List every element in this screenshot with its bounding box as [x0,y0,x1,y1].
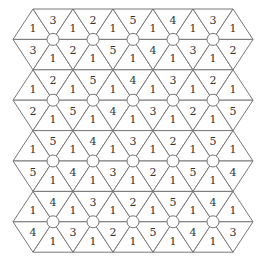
vertex-circle [87,33,99,45]
cell-number: 1 [50,113,57,126]
cell-number: 2 [70,44,77,57]
cell-number: 1 [90,113,97,126]
cell-number: 1 [30,22,37,35]
cell-number: 1 [230,22,237,35]
vertex-circle [207,155,219,167]
cell-number: 1 [90,235,97,248]
vertex-circle [47,155,59,167]
cell-number: 4 [30,226,37,239]
cell-number: 1 [170,113,177,126]
vertex-circle [127,155,139,167]
vertex-circle [127,33,139,45]
cell-number: 2 [190,105,197,118]
cell-number: 1 [90,52,97,65]
cell-number: 1 [130,113,137,126]
cell-number: 2 [130,196,137,209]
cell-number: 1 [50,235,57,248]
cell-number: 5 [150,226,157,239]
vertex-circle [167,94,179,106]
cell-number: 1 [150,83,157,96]
cell-number: 1 [230,83,237,96]
vertex-circle [47,216,59,228]
cell-number: 1 [170,174,177,187]
cell-number: 1 [230,204,237,217]
cell-number: 1 [150,204,157,217]
cell-number: 1 [170,235,177,248]
cell-number: 1 [70,204,77,217]
cell-number: 1 [110,143,117,156]
cell-number: 3 [190,44,197,57]
cell-number: 2 [170,135,177,148]
cell-number: 2 [90,14,97,27]
vertex-circle [207,216,219,228]
cell-number: 4 [130,74,137,87]
cell-number: 2 [30,105,37,118]
cell-number: 1 [70,22,77,35]
cell-number: 2 [110,226,117,239]
cell-number: 1 [150,143,157,156]
cell-number: 4 [70,166,77,179]
cell-number: 5 [110,44,117,57]
cell-number: 1 [130,174,137,187]
cell-number: 3 [150,105,157,118]
cell-number: 2 [230,44,237,57]
cell-number: 3 [230,226,237,239]
vertex-circle [167,216,179,228]
cell-number: 3 [130,135,137,148]
cell-number: 4 [150,44,157,57]
cell-number: 1 [190,143,197,156]
vertex-circle [207,33,219,45]
cell-number: 1 [110,83,117,96]
cell-number: 4 [210,196,217,209]
vertex-circle [207,94,219,106]
cell-number: 1 [30,143,37,156]
vertex-circle [127,94,139,106]
cell-number: 5 [70,105,77,118]
vertex-circle [47,94,59,106]
cell-number: 1 [110,204,117,217]
cell-number: 1 [210,174,217,187]
cell-number: 2 [150,166,157,179]
cell-number: 3 [210,14,217,27]
cell-number: 1 [110,22,117,35]
cell-number: 1 [70,83,77,96]
cell-number: 4 [110,105,117,118]
cell-number: 1 [190,204,197,217]
cell-number: 5 [190,166,197,179]
cell-number: 3 [30,44,37,57]
cell-number: 1 [50,174,57,187]
cell-number: 4 [190,226,197,239]
cell-number: 1 [130,52,137,65]
cell-number: 1 [230,143,237,156]
cell-number: 3 [110,166,117,179]
vertex-circle [47,33,59,45]
cell-number: 1 [90,174,97,187]
cell-number: 4 [230,166,237,179]
cell-number: 3 [170,74,177,87]
cell-number: 5 [50,135,57,148]
cell-number: 3 [90,196,97,209]
cell-number: 5 [230,105,237,118]
cell-number: 1 [190,22,197,35]
cell-number: 1 [50,52,57,65]
cell-number: 4 [170,14,177,27]
cell-number: 1 [70,143,77,156]
cell-number: 5 [210,135,217,148]
cell-number: 3 [50,14,57,27]
cell-number: 5 [130,14,137,27]
vertex-circle [167,33,179,45]
cell-number: 4 [90,135,97,148]
vertex-circle [87,216,99,228]
cell-number: 1 [130,235,137,248]
vertex-circle [87,155,99,167]
vertex-circle [167,155,179,167]
vertex-circle [87,94,99,106]
cell-number: 1 [190,83,197,96]
cell-number: 1 [210,52,217,65]
cell-number: 1 [150,22,157,35]
cell-number: 1 [30,83,37,96]
cell-number: 2 [50,74,57,87]
cell-number: 4 [50,196,57,209]
cell-number: 3 [70,226,77,239]
cell-number: 1 [30,204,37,217]
